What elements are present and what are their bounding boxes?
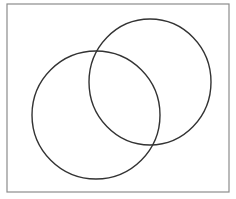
left-set-circle bbox=[32, 51, 160, 179]
diagram-frame bbox=[7, 4, 229, 192]
right-set-circle bbox=[89, 19, 211, 145]
venn-diagram bbox=[0, 0, 236, 199]
